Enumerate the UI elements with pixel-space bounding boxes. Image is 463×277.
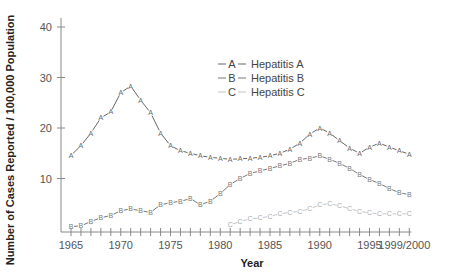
data-point-marker: A xyxy=(158,130,163,137)
data-point-marker: B xyxy=(317,152,322,159)
data-point-marker: A xyxy=(268,152,273,159)
series-segment xyxy=(322,129,327,131)
series-segment xyxy=(323,157,327,159)
data-point-marker: B xyxy=(367,176,372,183)
data-point-marker: B xyxy=(228,181,233,188)
series-segment xyxy=(243,175,248,177)
series-segment xyxy=(183,151,187,152)
data-point-marker: B xyxy=(148,209,153,216)
series-segment xyxy=(263,156,267,157)
data-point-marker: B xyxy=(69,223,74,230)
data-point-marker: B xyxy=(298,156,303,163)
y-tick-label: 10 xyxy=(40,173,52,185)
data-point-marker: C xyxy=(267,213,272,220)
data-point-marker: C xyxy=(337,202,342,209)
data-point-marker: A xyxy=(138,97,143,104)
data-point-marker: A xyxy=(79,142,84,149)
data-point-marker: A xyxy=(367,144,372,151)
series-segment xyxy=(273,154,277,155)
data-point-marker: B xyxy=(108,212,113,219)
data-point-marker: C xyxy=(387,210,392,217)
data-point-marker: B xyxy=(347,165,352,172)
hepatitis-line-chart: 1020304019651970197519801985199019951999… xyxy=(0,0,463,277)
data-point-marker: B xyxy=(337,160,342,167)
data-point-marker: A xyxy=(218,155,223,162)
series-segment xyxy=(283,150,287,152)
x-tick-label: 1990 xyxy=(308,239,332,251)
data-point-marker: B xyxy=(288,160,293,167)
series-segment xyxy=(253,172,257,173)
data-point-marker: A xyxy=(397,147,402,154)
x-tick-label: 1975 xyxy=(158,239,182,251)
data-point-marker: A xyxy=(357,150,362,157)
data-point-marker: A xyxy=(128,83,133,90)
series-segment xyxy=(83,135,89,143)
series-segment xyxy=(353,210,357,211)
data-point-marker: A xyxy=(118,89,123,96)
series-segment xyxy=(332,160,336,162)
data-point-marker: A xyxy=(327,130,332,137)
x-tick-label: 1965 xyxy=(59,239,83,251)
series-segment xyxy=(114,212,118,214)
data-point-marker: A xyxy=(248,155,253,162)
data-point-marker: C xyxy=(397,210,402,217)
data-point-marker: A xyxy=(99,114,104,121)
data-point-marker: C xyxy=(327,200,332,207)
data-point-marker: A xyxy=(228,156,233,163)
series-segment xyxy=(112,95,119,109)
legend-label: Hepatitis A xyxy=(251,58,304,70)
data-point-marker: A xyxy=(198,152,203,159)
series-segment xyxy=(93,120,100,130)
data-point-marker: C xyxy=(248,215,253,222)
data-point-marker: A xyxy=(188,150,193,157)
series-segment xyxy=(333,204,337,205)
data-point-marker: A xyxy=(238,155,243,162)
series-c: CCCCCCCCCCCCCCCCCCC xyxy=(228,200,412,228)
series-segment xyxy=(392,190,396,192)
data-point-marker: C xyxy=(228,221,233,228)
data-point-marker: A xyxy=(258,154,263,161)
data-point-marker: A xyxy=(148,109,153,116)
legend-label: Hepatitis C xyxy=(251,86,305,98)
series-segment xyxy=(402,193,406,194)
data-point-marker: A xyxy=(108,108,113,115)
series-segment xyxy=(283,213,287,214)
data-point-marker: C xyxy=(317,201,322,208)
data-point-marker: A xyxy=(178,147,183,154)
series-segment xyxy=(163,203,167,204)
data-point-marker: A xyxy=(307,131,312,138)
series-segment xyxy=(313,157,317,158)
data-point-marker: C xyxy=(277,210,282,217)
data-point-marker: B xyxy=(208,198,213,205)
y-tick-label: 40 xyxy=(40,21,52,33)
data-point-marker: C xyxy=(297,208,302,215)
series-segment xyxy=(84,223,88,225)
data-point-marker: A xyxy=(69,152,74,159)
series-segment xyxy=(173,202,177,203)
data-point-marker: B xyxy=(377,180,382,187)
series-segment xyxy=(243,220,247,221)
series-segment xyxy=(363,212,367,213)
data-point-marker: C xyxy=(367,209,372,216)
data-point-marker: B xyxy=(307,155,312,162)
data-point-marker: C xyxy=(287,209,292,216)
data-point-marker: B xyxy=(188,195,193,202)
series-segment xyxy=(173,147,178,149)
data-point-marker: B xyxy=(248,170,253,177)
data-point-marker: B xyxy=(327,156,332,163)
data-point-marker: B xyxy=(158,201,163,208)
data-point-marker: B xyxy=(258,167,263,174)
data-point-marker: C xyxy=(307,205,312,212)
legend-label: Hepatitis B xyxy=(251,72,304,84)
data-point-marker: C xyxy=(357,208,362,215)
y-tick-label: 30 xyxy=(40,72,52,84)
data-point-marker: C xyxy=(347,205,352,212)
series-segment xyxy=(283,164,287,165)
data-point-marker: A xyxy=(298,140,303,147)
data-point-marker: B xyxy=(218,190,223,197)
series-segment xyxy=(144,211,148,212)
data-point-marker: B xyxy=(397,189,402,196)
data-point-marker: A xyxy=(387,144,392,151)
data-point-marker: A xyxy=(208,154,213,161)
data-series: AAAAAAAAAAAAAAAAAAAAAAAAAAAAAAAAAAABBBBB… xyxy=(69,83,412,230)
